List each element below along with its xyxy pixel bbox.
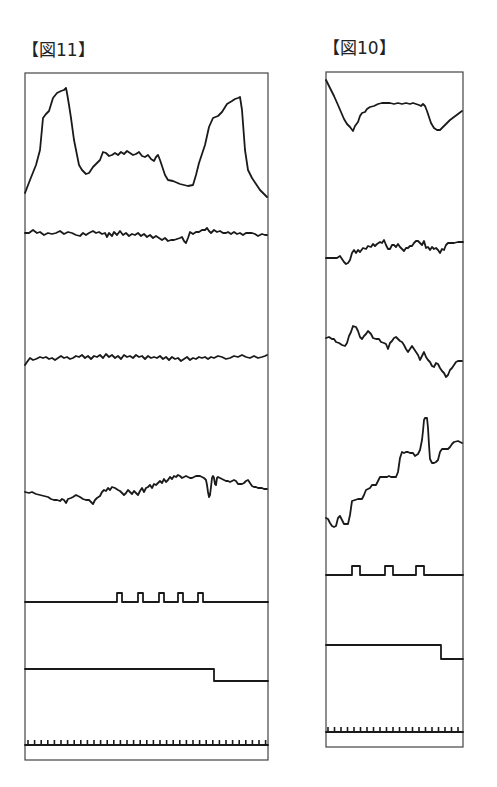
figure-10-panel: [326, 72, 463, 747]
fig10-waveform-3: [326, 326, 462, 377]
figure-10-ticks: [328, 727, 458, 732]
fig11-step-signal: [25, 669, 268, 681]
figure-11-traces: [25, 88, 268, 745]
fig10-waveform-2: [326, 240, 463, 264]
figures-canvas: [0, 0, 497, 787]
fig11-waveform-3: [25, 354, 267, 365]
fig11-pulse-train: [25, 593, 268, 602]
figure-11-frame: [25, 73, 268, 760]
fig11-waveform-1: [25, 88, 267, 197]
figure-10-traces: [326, 80, 463, 732]
fig10-waveform-4: [326, 418, 462, 527]
figure-11-panel: [25, 73, 268, 760]
fig10-step-signal: [326, 645, 463, 659]
fig11-waveform-4: [25, 475, 267, 504]
fig10-waveform-1: [326, 80, 462, 131]
fig10-pulse-train: [326, 566, 463, 575]
fig11-waveform-2: [25, 228, 267, 243]
